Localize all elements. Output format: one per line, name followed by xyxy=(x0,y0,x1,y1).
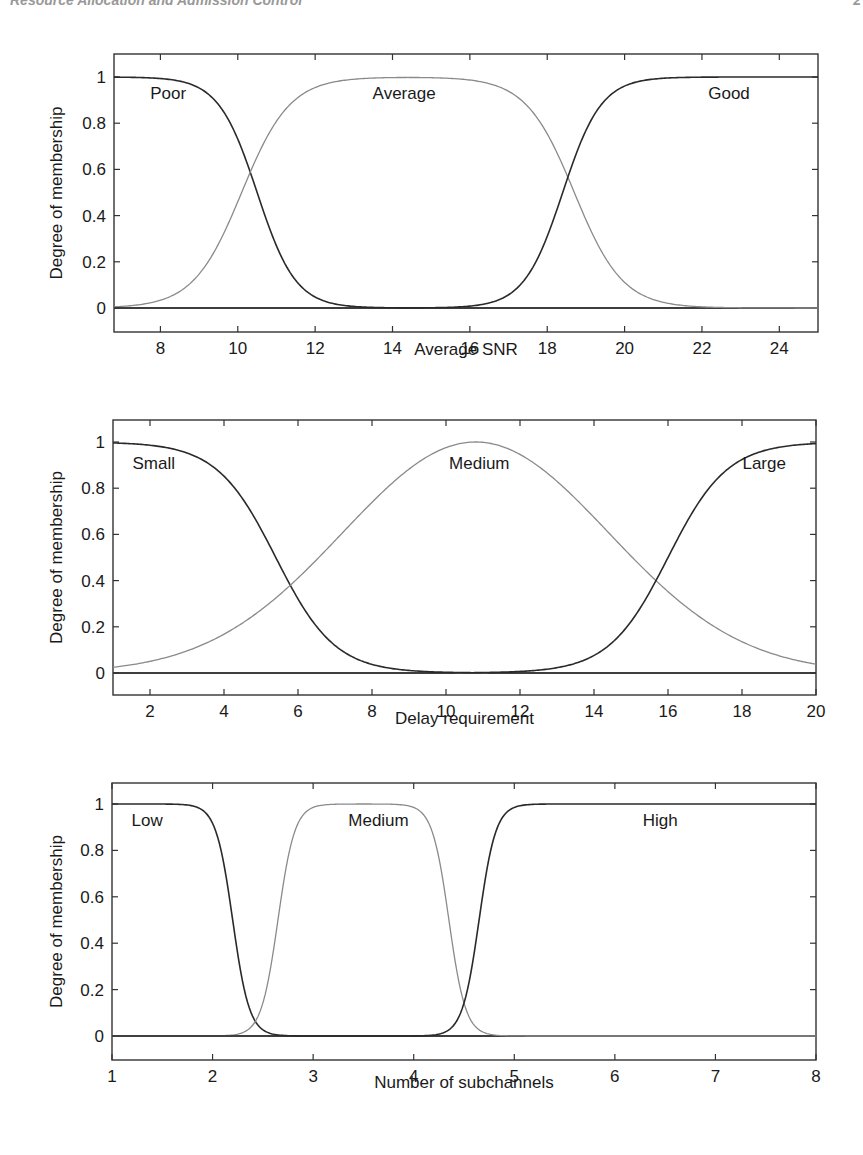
y-tick-label: 0.4 xyxy=(81,572,105,591)
label-poor: Poor xyxy=(150,84,186,103)
x-tick-label: 7 xyxy=(711,1067,720,1086)
label-medium: Medium xyxy=(449,454,509,473)
x-tick-label: 1 xyxy=(107,1067,116,1086)
y-tick-label: 0.8 xyxy=(81,479,105,498)
chart-delay-requirement: 00.20.40.60.812468101214161820SmallMediu… xyxy=(47,420,825,728)
y-tick-label: 1 xyxy=(95,795,104,814)
y-axis-label: Degree of membership xyxy=(47,107,66,280)
x-tick-label: 3 xyxy=(308,1067,317,1086)
x-tick-label: 14 xyxy=(383,339,402,358)
curve-small xyxy=(113,443,816,673)
x-tick-label: 8 xyxy=(367,702,376,721)
x-tick-label: 16 xyxy=(659,702,678,721)
label-good: Good xyxy=(708,84,750,103)
label-high: High xyxy=(643,811,678,830)
x-tick-label: 18 xyxy=(538,339,557,358)
y-tick-label: 0.6 xyxy=(81,525,105,544)
y-tick-label: 0.2 xyxy=(82,253,106,272)
curve-poor xyxy=(114,77,818,308)
y-tick-label: 0.6 xyxy=(82,160,106,179)
x-tick-label: 6 xyxy=(610,1067,619,1086)
curve-average xyxy=(114,77,818,308)
y-tick-label: 0.4 xyxy=(80,934,104,953)
x-tick-label: 18 xyxy=(733,702,752,721)
label-large: Large xyxy=(742,454,785,473)
label-medium: Medium xyxy=(348,811,408,830)
y-axis-label: Degree of membership xyxy=(47,835,66,1008)
curve-good xyxy=(114,77,818,308)
y-tick-label: 1 xyxy=(96,433,105,452)
x-tick-label: 14 xyxy=(585,702,604,721)
x-axis-label: Delay requirement xyxy=(395,709,534,728)
x-tick-label: 8 xyxy=(811,1067,820,1086)
y-tick-label: 0.2 xyxy=(81,618,105,637)
y-tick-label: 0 xyxy=(96,664,105,683)
chart-number-of-subchannels: 00.20.40.60.8112345678LowMediumHighNumbe… xyxy=(47,783,821,1092)
y-tick-label: 0.8 xyxy=(82,114,106,133)
x-tick-label: 10 xyxy=(228,339,247,358)
x-tick-label: 4 xyxy=(219,702,228,721)
x-axis-label: Average SNR xyxy=(414,340,518,359)
y-axis-label: Degree of membership xyxy=(47,471,66,644)
x-tick-label: 12 xyxy=(306,339,325,358)
y-tick-label: 0 xyxy=(95,1027,104,1046)
curve-medium xyxy=(113,442,816,667)
x-tick-label: 2 xyxy=(145,702,154,721)
x-tick-label: 20 xyxy=(615,339,634,358)
y-tick-label: 0.4 xyxy=(82,207,106,226)
plot-area xyxy=(112,783,816,1060)
label-small: Small xyxy=(132,454,175,473)
x-axis-label: Number of subchannels xyxy=(374,1073,554,1092)
curve-large xyxy=(113,444,816,673)
y-tick-label: 0.6 xyxy=(80,888,104,907)
y-tick-label: 1 xyxy=(97,68,106,87)
y-tick-label: 0 xyxy=(97,299,106,318)
x-tick-label: 24 xyxy=(770,339,789,358)
y-tick-label: 0.2 xyxy=(80,981,104,1000)
label-average: Average xyxy=(373,84,436,103)
x-tick-label: 8 xyxy=(156,339,165,358)
y-tick-label: 0.8 xyxy=(80,841,104,860)
x-tick-label: 2 xyxy=(208,1067,217,1086)
x-tick-label: 6 xyxy=(293,702,302,721)
x-tick-label: 20 xyxy=(807,702,826,721)
x-tick-label: 22 xyxy=(692,339,711,358)
membership-function-figure: 00.20.40.60.8181012141618202224PoorAvera… xyxy=(0,0,863,1155)
label-low: Low xyxy=(132,811,164,830)
chart-average-snr: 00.20.40.60.8181012141618202224PoorAvera… xyxy=(47,54,818,359)
